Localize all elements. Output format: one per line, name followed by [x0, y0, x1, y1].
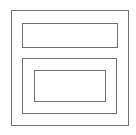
inner-box — [34, 70, 106, 102]
top-bar — [22, 23, 118, 48]
